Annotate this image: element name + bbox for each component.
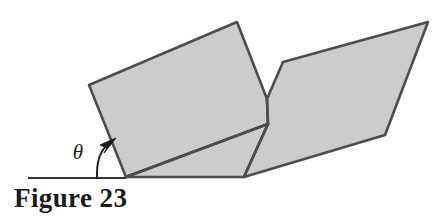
valley-crease-line — [267, 99, 268, 124]
right-plane-shape — [244, 22, 428, 177]
figure-caption: Figure 23 — [14, 185, 127, 212]
theta-angle-label: θ — [73, 140, 83, 164]
figure-23-container: θ Figure 23 — [0, 0, 442, 218]
